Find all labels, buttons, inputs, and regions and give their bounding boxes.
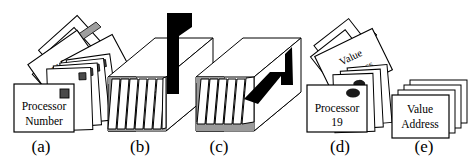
panel-b-cards <box>108 79 165 129</box>
panel-c-cards <box>197 79 245 124</box>
panel-e-front-line1: Value <box>407 103 433 115</box>
panel-a-corner-marker-icon <box>60 89 69 98</box>
diagram-svg: Value ress <box>0 0 472 162</box>
panel-d-front-line1: Processor <box>315 102 360 114</box>
panel-e: Value Address (e) <box>392 80 467 156</box>
panel-a-front-line2: Number <box>25 115 63 127</box>
panel-a-front-card: Processor Number <box>14 84 74 132</box>
panel-b-caption: (b) <box>130 137 150 156</box>
panel-d: Value Address <box>307 19 392 156</box>
panel-e-front-card: Value Address <box>392 95 449 138</box>
panel-b-card-pack-edge <box>162 77 166 129</box>
panel-d-corner-marker-icon <box>346 89 360 98</box>
panel-d-front-line2: 19 <box>331 116 343 128</box>
panel-e-caption: (e) <box>415 137 434 156</box>
panel-e-front-line2: Address <box>401 118 439 130</box>
panel-a-front-line1: Processor <box>22 100 67 112</box>
panel-d-front-card: Processor 19 <box>307 85 367 132</box>
panel-d-caption: (d) <box>330 137 350 156</box>
panel-a-caption: (a) <box>32 137 51 156</box>
panel-c-caption: (c) <box>210 137 229 156</box>
